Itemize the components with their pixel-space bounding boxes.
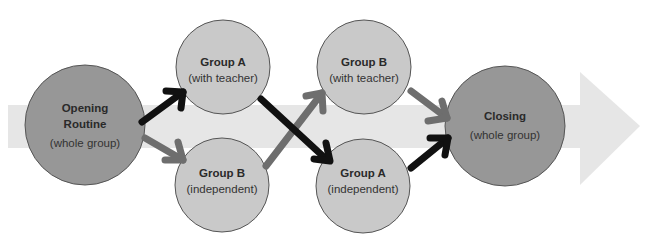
node-group-a-teacher-subtitle: (with teacher) [188, 71, 258, 87]
node-group-b-teacher-title: Group B [329, 55, 399, 71]
node-closing-subtitle: (whole group) [470, 128, 540, 144]
rotation-flow-diagram: Opening Routine (whole group) Group A (w… [0, 0, 651, 248]
node-group-b-teacher-label: Group B (with teacher) [329, 55, 399, 86]
node-opening-subtitle: (whole group) [50, 136, 120, 152]
node-group-a-teacher-label: Group A (with teacher) [188, 55, 258, 86]
node-opening-label: Opening Routine (whole group) [50, 101, 120, 152]
node-group-a-independent-label: Group A (independent) [328, 166, 399, 197]
node-group-a-independent-subtitle: (independent) [328, 182, 399, 198]
node-opening-title: Opening [50, 101, 120, 117]
node-closing-title: Closing [470, 109, 540, 125]
node-group-b-independent-subtitle: (independent) [187, 182, 258, 198]
node-group-b-teacher-subtitle: (with teacher) [329, 71, 399, 87]
node-group-b-independent-title: Group B [187, 166, 258, 182]
node-group-a-independent-title: Group A [328, 166, 399, 182]
node-closing-label: Closing (whole group) [470, 109, 540, 143]
node-group-a-teacher-title: Group A [188, 55, 258, 71]
node-group-b-independent-label: Group B (independent) [187, 166, 258, 197]
node-opening-title-line2: Routine [50, 116, 120, 132]
